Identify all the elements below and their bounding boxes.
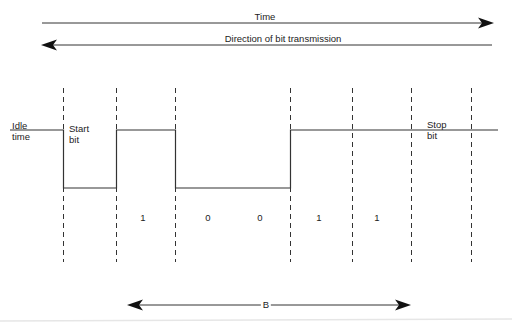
start-bit-label: Start bit [69,123,89,145]
idle-time-label: Idle time [12,120,30,142]
bit-value: 1 [140,212,145,223]
stop-label-line2: bit [427,130,447,141]
timing-diagram [0,0,512,328]
bit-boundaries [64,88,472,262]
bit-value: 1 [316,212,321,223]
bit-value: 1 [374,212,379,223]
idle-label-line1: Idle [12,120,30,131]
bottom-divider [0,319,512,321]
start-label-line2: bit [69,134,89,145]
bit-value: 0 [257,212,262,223]
span-b-label: B [261,299,271,310]
time-label: Time [255,11,276,22]
transmission-direction-label: Direction of bit transmission [225,33,342,44]
idle-label-line2: time [12,131,30,142]
stop-label-line1: Stop [427,119,447,130]
bit-value: 0 [205,212,210,223]
stop-bit-label: Stop bit [427,119,447,141]
start-label-line1: Start [69,123,89,134]
